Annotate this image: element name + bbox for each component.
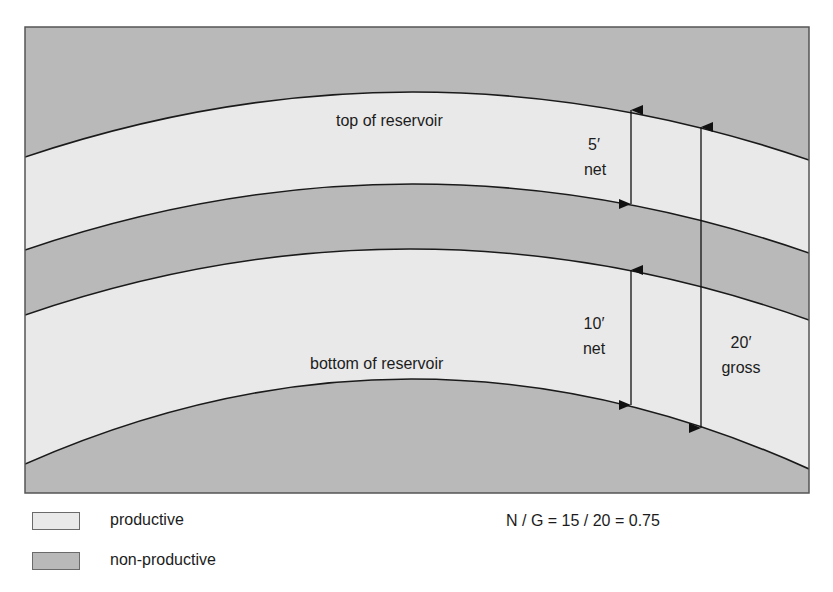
gross-word-label: gross [721,358,760,378]
net-to-gross-formula: N / G = 15 / 20 = 0.75 [506,511,660,531]
legend-swatch-non-productive [32,552,80,570]
upper-net-value-label: 5′ [588,135,600,155]
legend-swatch-productive [32,512,80,530]
upper-net-word-label: net [584,160,606,180]
reservoir-cross-section [0,0,833,592]
bottom-of-reservoir-label: bottom of reservoir [310,354,443,374]
legend-label-productive: productive [110,510,184,530]
top-of-reservoir-label: top of reservoir [336,111,443,131]
lower-net-word-label: net [583,339,605,359]
legend-label-non-productive: non-productive [110,550,216,570]
gross-value-label: 20′ [731,333,752,353]
lower-net-value-label: 10′ [584,314,605,334]
